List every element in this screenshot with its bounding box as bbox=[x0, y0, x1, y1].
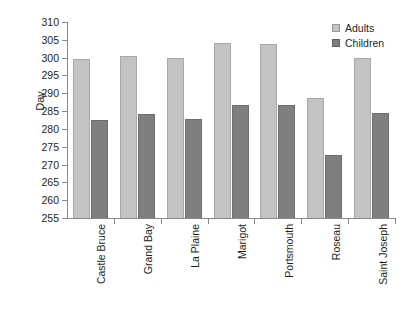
bar-adults-la-plaine bbox=[167, 58, 184, 218]
x-axis-label: Marigot bbox=[236, 224, 248, 259]
x-axis-label: Castle Bruce bbox=[95, 224, 107, 284]
y-tick-mark bbox=[62, 147, 67, 148]
legend-item-children: Children bbox=[332, 35, 384, 50]
y-tick-label: 285 bbox=[41, 105, 59, 117]
y-tick-mark bbox=[62, 40, 67, 41]
x-axis-label: Saint Joseph bbox=[377, 224, 389, 285]
y-tick-label: 275 bbox=[41, 141, 59, 153]
x-axis-separator bbox=[208, 218, 209, 224]
legend-label-children: Children bbox=[345, 37, 384, 49]
bar-children-castle-bruce bbox=[91, 120, 108, 218]
bar-adults-saint-joseph bbox=[354, 58, 371, 218]
bar-adults-marigot bbox=[214, 43, 231, 218]
y-tick-label: 265 bbox=[41, 176, 59, 188]
x-axis-line bbox=[67, 218, 396, 219]
y-axis-line bbox=[67, 22, 68, 219]
y-tick-label: 305 bbox=[41, 34, 59, 46]
bar-chart: Day 255260265270275280285290295300305310… bbox=[0, 0, 412, 317]
y-tick-mark bbox=[62, 75, 67, 76]
bar-children-marigot bbox=[232, 105, 249, 218]
bar-adults-portsmouth bbox=[260, 44, 277, 218]
y-tick-label: 310 bbox=[41, 16, 59, 28]
x-axis-label: Portsmouth bbox=[283, 224, 295, 278]
bar-children-grand-bay bbox=[138, 114, 155, 218]
y-tick-mark bbox=[62, 58, 67, 59]
x-axis-separator bbox=[348, 218, 349, 224]
legend-label-adults: Adults bbox=[345, 22, 374, 34]
y-tick-mark bbox=[62, 218, 67, 219]
x-axis-label: Grand Bay bbox=[142, 224, 154, 274]
y-tick-mark bbox=[62, 129, 67, 130]
y-tick-mark bbox=[62, 22, 67, 23]
y-tick-mark bbox=[62, 200, 67, 201]
y-tick-label: 270 bbox=[41, 159, 59, 171]
bar-children-la-plaine bbox=[185, 119, 202, 218]
bar-children-saint-joseph bbox=[372, 113, 389, 218]
y-tick-label: 260 bbox=[41, 194, 59, 206]
x-axis-separator bbox=[161, 218, 162, 224]
y-tick-label: 295 bbox=[41, 69, 59, 81]
bar-adults-roseau bbox=[307, 98, 324, 218]
x-axis-label: Roseau bbox=[330, 224, 342, 260]
y-tick-label: 300 bbox=[41, 52, 59, 64]
y-tick-mark bbox=[62, 165, 67, 166]
y-tick-mark bbox=[62, 93, 67, 94]
y-tick-mark bbox=[62, 111, 67, 112]
x-axis-separator bbox=[114, 218, 115, 224]
y-tick-mark bbox=[62, 182, 67, 183]
legend-swatch-adults-icon bbox=[332, 24, 340, 32]
y-tick-label: 255 bbox=[41, 212, 59, 224]
bar-children-portsmouth bbox=[278, 105, 295, 218]
chart-legend: Adults Children bbox=[332, 20, 384, 50]
x-axis-separator bbox=[301, 218, 302, 224]
y-tick-label: 280 bbox=[41, 123, 59, 135]
x-axis-separator bbox=[395, 218, 396, 224]
bar-adults-castle-bruce bbox=[73, 59, 90, 218]
bar-children-roseau bbox=[325, 155, 342, 218]
legend-swatch-children-icon bbox=[332, 39, 340, 47]
bar-adults-grand-bay bbox=[120, 56, 137, 218]
x-axis-separator bbox=[254, 218, 255, 224]
x-axis-label: La Plaine bbox=[189, 224, 201, 268]
legend-item-adults: Adults bbox=[332, 20, 384, 35]
y-tick-label: 290 bbox=[41, 87, 59, 99]
plot-area: 255260265270275280285290295300305310 bbox=[67, 22, 395, 218]
